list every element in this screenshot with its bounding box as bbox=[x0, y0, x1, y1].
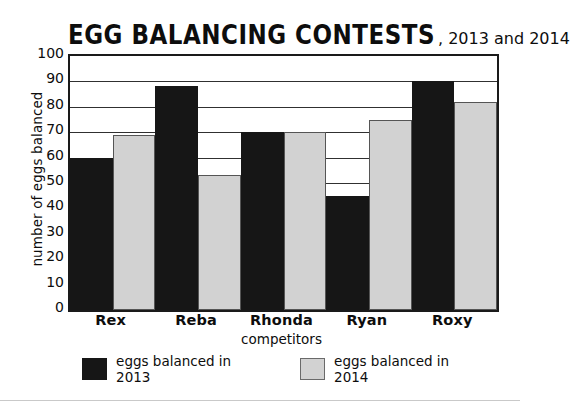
y-tick-label: 40 bbox=[22, 198, 64, 212]
chart-title-main: EGG BALANCING CONTESTS bbox=[68, 22, 435, 48]
chart-title-years: , 2013 and 2014 bbox=[438, 31, 570, 48]
bottom-divider bbox=[0, 400, 520, 401]
bar-rhonda-2013 bbox=[241, 132, 284, 310]
y-tick-label: 80 bbox=[22, 97, 64, 111]
x-tick-label: Reba bbox=[153, 312, 238, 332]
y-axis-ticks: 1009080706050403020100 bbox=[18, 0, 64, 410]
x-tick-label: Rhonda bbox=[239, 312, 324, 332]
x-axis-label: competitors bbox=[68, 331, 495, 347]
legend-swatch-2013-icon bbox=[82, 358, 107, 380]
legend-label-2014: eggs balanced in 2014 bbox=[334, 353, 482, 385]
bar-groups bbox=[70, 56, 497, 310]
y-tick-label: 70 bbox=[22, 122, 64, 136]
y-tick-label: 20 bbox=[22, 249, 64, 263]
bar-ryan-2014 bbox=[369, 120, 412, 311]
x-axis-ticks: RexRebaRhondaRyanRoxy bbox=[68, 312, 495, 332]
legend-item-2014: eggs balanced in 2014 bbox=[300, 353, 482, 385]
legend-label-2013: eggs balanced in 2013 bbox=[116, 353, 264, 385]
legend-item-2013: eggs balanced in 2013 bbox=[82, 353, 264, 385]
y-tick-label: 10 bbox=[22, 275, 64, 289]
bar-roxy-2013 bbox=[412, 81, 455, 310]
bar-rex-2014 bbox=[113, 135, 156, 310]
bar-group bbox=[70, 56, 155, 310]
bar-group bbox=[241, 56, 326, 310]
plot-area bbox=[68, 54, 499, 312]
y-tick-label: 90 bbox=[22, 71, 64, 85]
chart-legend: eggs balanced in 2013 eggs balanced in 2… bbox=[82, 355, 482, 383]
x-tick-label: Ryan bbox=[324, 312, 409, 332]
bar-rex-2013 bbox=[70, 158, 113, 310]
y-tick-label: 50 bbox=[22, 173, 64, 187]
x-tick-label: Rex bbox=[68, 312, 153, 332]
y-tick-label: 60 bbox=[22, 148, 64, 162]
bar-roxy-2014 bbox=[454, 102, 497, 310]
bar-group bbox=[155, 56, 240, 310]
bar-ryan-2013 bbox=[326, 196, 369, 310]
bar-group bbox=[412, 56, 497, 310]
chart-title: EGG BALANCING CONTESTS, 2013 and 2014 bbox=[68, 4, 508, 48]
y-tick-label: 0 bbox=[22, 300, 64, 314]
bar-reba-2014 bbox=[198, 175, 241, 310]
bar-rhonda-2014 bbox=[284, 132, 327, 310]
bar-group bbox=[326, 56, 411, 310]
legend-swatch-2014-icon bbox=[300, 358, 325, 380]
bar-reba-2013 bbox=[155, 86, 198, 310]
x-tick-label: Roxy bbox=[410, 312, 495, 332]
y-tick-label: 30 bbox=[22, 224, 64, 238]
y-tick-label: 100 bbox=[22, 46, 64, 60]
